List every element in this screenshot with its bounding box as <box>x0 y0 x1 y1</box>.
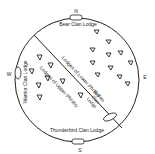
warrior-clan-lodge-label: Warrior Clan Lodge <box>22 60 28 103</box>
tent-group-lower-phratry <box>90 30 133 86</box>
compass-east: E <box>143 74 147 80</box>
village-layout-diagram: N Bear Clan Lodge S Thunderbird Clan Lod… <box>0 0 155 154</box>
triangle-tent-icon <box>37 55 42 60</box>
thunderbird-lodge-shape <box>72 139 84 144</box>
triangle-tent-icon <box>94 30 99 34</box>
triangle-tent-icon <box>106 40 111 44</box>
bear-lodge-shape <box>70 15 82 20</box>
warrior-lodge-shape <box>15 67 21 79</box>
triangle-tent-icon <box>95 73 100 77</box>
triangle-tent-icon <box>125 82 130 86</box>
bear-clan-lodge-label: Bear Clan Lodge <box>59 21 97 27</box>
triangle-tent-icon <box>78 93 83 98</box>
triangle-tent-icon <box>36 83 41 88</box>
compass-north: N <box>74 8 78 14</box>
triangle-tent-icon <box>108 66 113 70</box>
triangle-tent-icon <box>90 48 95 52</box>
compass-west: W <box>7 71 12 77</box>
compass-south: S <box>78 147 82 153</box>
triangle-tent-icon <box>117 75 122 79</box>
triangle-tent-icon <box>90 61 95 65</box>
triangle-tent-icon <box>106 53 111 57</box>
triangle-tent-icon <box>29 69 34 74</box>
triangle-tent-icon <box>37 95 42 100</box>
triangle-tent-icon <box>128 61 133 65</box>
triangle-tent-icon <box>118 51 123 55</box>
triangle-tent-icon <box>48 63 53 68</box>
thunderbird-clan-lodge-label: Thunderbird Clan Lodge <box>50 127 104 133</box>
